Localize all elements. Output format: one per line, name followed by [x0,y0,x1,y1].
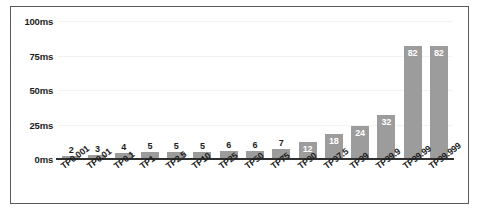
bar-value-label: 24 [351,128,369,138]
y-axis-tick-label: 25ms [30,119,54,130]
bar: 5 [167,21,185,159]
bar: 24 [351,21,369,159]
bar: 32 [377,21,395,159]
y-axis: 0ms25ms50ms75ms100ms [11,7,56,167]
bar-value-label: 82 [404,48,422,58]
bar: 18 [325,21,343,159]
bar: 2 [62,21,80,159]
bar-value-label: 5 [141,141,159,151]
bar: 82 [430,21,448,159]
y-axis-tick-label: 50ms [30,85,54,96]
bar-value-label: 6 [246,140,264,150]
chart-figure: 0ms25ms50ms75ms100ms 2345556671218243282… [10,6,469,204]
bar: 5 [141,21,159,159]
bar: 7 [272,21,290,159]
bar-value-label: 6 [220,140,238,150]
bar: 4 [115,21,133,159]
bar: 6 [220,21,238,159]
bar: 5 [193,21,211,159]
y-axis-tick-label: 75ms [30,50,54,61]
bar-rect [430,46,448,159]
bar-value-label: 5 [193,141,211,151]
bar: 82 [404,21,422,159]
bar-value-label: 7 [272,138,290,148]
bar: 12 [299,21,317,159]
bar-value-label: 32 [377,117,395,127]
bar-value-label: 82 [430,48,448,58]
y-axis-tick-label: 0ms [35,154,53,165]
bar-value-label: 18 [325,136,343,146]
bar-rect [404,46,422,159]
bar: 3 [88,21,106,159]
y-axis-tick-label: 100ms [24,16,53,27]
bar: 6 [246,21,264,159]
plot-area: 234555667121824328282 [58,21,452,159]
